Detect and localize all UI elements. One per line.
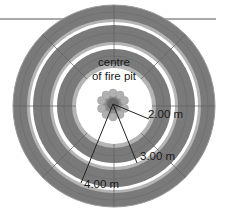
radius-label-3m: 3.00 m: [140, 150, 175, 162]
center-label-line-1: centre: [98, 56, 130, 68]
fire-pit-diagram: centre of fire pit 2.00 m 3.00 m 4.00 m: [0, 0, 229, 213]
center-label-line-2: of fire pit: [92, 70, 137, 82]
radius-label-2m: 2.00 m: [148, 108, 183, 120]
radius-label-4m: 4.00 m: [84, 178, 119, 190]
